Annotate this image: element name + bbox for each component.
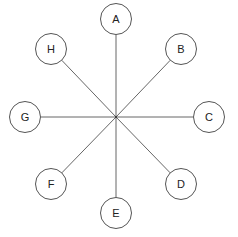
node-e: E <box>101 198 132 229</box>
node-label: A <box>112 13 120 25</box>
node-label: H <box>47 43 55 55</box>
edge-h <box>62 60 116 117</box>
node-label: C <box>205 111 213 123</box>
node-g: G <box>10 102 41 133</box>
node-label: D <box>177 178 185 190</box>
node-label: F <box>48 178 55 190</box>
edge-b <box>116 60 170 117</box>
center-point <box>115 116 117 118</box>
node-h: H <box>36 34 67 65</box>
node-label: B <box>177 43 184 55</box>
node-b: B <box>166 34 197 65</box>
node-d: D <box>166 169 197 200</box>
node-label: G <box>21 111 30 123</box>
node-c: C <box>194 102 225 133</box>
star-diagram: A B C D E F G H <box>0 0 238 237</box>
edge-f <box>62 117 116 173</box>
node-a: A <box>101 4 132 35</box>
edge-d <box>116 117 170 173</box>
node-label: E <box>112 207 119 219</box>
node-f: F <box>36 169 67 200</box>
